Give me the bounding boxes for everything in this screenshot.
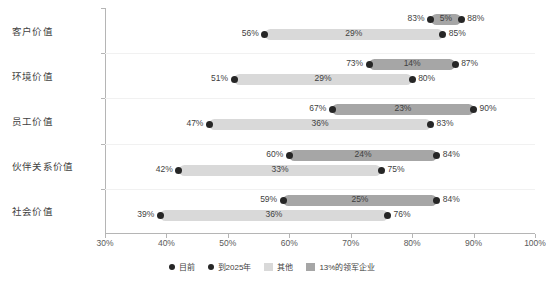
delta-value-label: 5%	[426, 13, 466, 23]
x-tick-label: 40%	[158, 238, 175, 248]
category-label: 社会价值	[0, 204, 96, 218]
chart-row: 73%87%14%51%80%29%	[105, 53, 535, 98]
start-value-label: 83%	[395, 13, 425, 23]
delta-value-label: 29%	[303, 73, 343, 83]
end-value-label: 90%	[480, 103, 497, 113]
end-value-label: 75%	[387, 164, 404, 174]
x-tick-label: 30%	[96, 238, 113, 248]
legend-label: 到2025年	[218, 261, 252, 272]
start-value-label: 39%	[124, 209, 154, 219]
target-2025-value-dot	[439, 31, 446, 38]
x-tick-label: 100%	[524, 238, 546, 248]
target-2025-value-dot	[378, 167, 385, 174]
start-value-label: 51%	[198, 73, 228, 83]
legend-swatch-icon	[264, 263, 273, 271]
target-2025-value-dot	[433, 152, 440, 159]
legend-swatch-icon	[306, 263, 315, 271]
delta-value-label: 24%	[343, 149, 383, 159]
start-value-label: 47%	[173, 118, 203, 128]
delta-value-label: 14%	[392, 58, 432, 68]
legend-item[interactable]: 13%的领军企业	[306, 261, 375, 272]
x-axis-tick-labels: 30%40%50%60%70%80%90%100%	[105, 238, 535, 252]
target-2025-value-dot	[470, 106, 477, 113]
x-tick-label: 60%	[281, 238, 298, 248]
end-value-label: 84%	[443, 194, 460, 204]
chart-row: 67%90%23%47%83%36%	[105, 98, 535, 143]
legend-label: 其他	[277, 261, 293, 272]
start-value-label: 73%	[333, 58, 363, 68]
legend-dot-icon	[169, 264, 175, 270]
start-value-label: 56%	[229, 28, 259, 38]
x-tick-label: 70%	[342, 238, 359, 248]
target-2025-value-dot	[427, 121, 434, 128]
legend-dot-icon	[208, 264, 214, 270]
delta-value-label: 36%	[254, 209, 294, 219]
target-2025-value-dot	[433, 197, 440, 204]
legend-item[interactable]: 到2025年	[208, 261, 252, 272]
category-axis: 客户价值环境价值员工价值伙伴关系价值社会价值	[0, 8, 100, 234]
current-value-dot	[286, 152, 293, 159]
start-value-label: 67%	[296, 103, 326, 113]
current-value-dot	[366, 61, 373, 68]
target-2025-value-dot	[452, 61, 459, 68]
chart-legend: 目前到2025年其他13%的领军企业	[0, 261, 544, 272]
delta-value-label: 33%	[260, 164, 300, 174]
plot-area: 83%88%5%56%85%29%73%87%14%51%80%29%67%90…	[105, 8, 535, 234]
current-value-dot	[157, 212, 164, 219]
legend-item[interactable]: 其他	[264, 261, 293, 272]
category-label: 客户价值	[0, 24, 96, 38]
current-value-dot	[231, 76, 238, 83]
legend-label: 13%的领军企业	[319, 261, 375, 272]
delta-value-label: 23%	[383, 103, 423, 113]
chart-row: 60%84%24%42%75%33%	[105, 144, 535, 189]
end-value-label: 80%	[418, 73, 435, 83]
start-value-label: 42%	[143, 164, 173, 174]
x-tick-label: 80%	[404, 238, 421, 248]
end-value-label: 88%	[467, 13, 484, 23]
delta-value-label: 25%	[340, 194, 380, 204]
legend-label: 目前	[179, 261, 195, 272]
x-tick-label: 90%	[465, 238, 482, 248]
start-value-label: 59%	[247, 194, 277, 204]
target-2025-value-dot	[384, 212, 391, 219]
end-value-label: 83%	[437, 118, 454, 128]
end-value-label: 87%	[461, 58, 478, 68]
current-value-dot	[175, 167, 182, 174]
end-value-label: 84%	[443, 149, 460, 159]
category-label: 环境价值	[0, 69, 96, 83]
category-label: 伙伴关系价值	[0, 159, 96, 173]
current-value-dot	[280, 197, 287, 204]
target-2025-value-dot	[409, 76, 416, 83]
chart-row: 59%84%25%39%76%36%	[105, 189, 535, 234]
delta-value-label: 36%	[300, 118, 340, 128]
x-tick-label: 50%	[219, 238, 236, 248]
legend-item[interactable]: 目前	[169, 261, 195, 272]
start-value-label: 60%	[253, 149, 283, 159]
delta-value-label: 29%	[334, 28, 374, 38]
end-value-label: 85%	[449, 28, 466, 38]
end-value-label: 76%	[394, 209, 411, 219]
chart-row: 83%88%5%56%85%29%	[105, 8, 535, 53]
category-label: 员工价值	[0, 114, 96, 128]
